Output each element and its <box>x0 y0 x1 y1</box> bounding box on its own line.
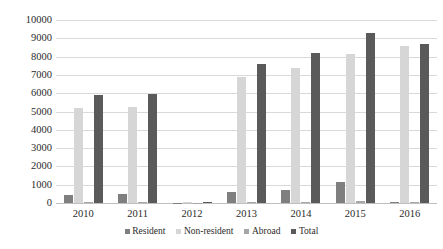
y-axis-tick-label: 5000 <box>0 106 52 117</box>
bar-total <box>148 94 157 203</box>
bar-resident <box>227 192 236 203</box>
gridline <box>56 203 437 204</box>
bar-resident <box>336 182 345 203</box>
bar-non-resident <box>74 108 83 203</box>
bar-group <box>383 20 437 203</box>
y-axis-tick-label: 8000 <box>0 51 52 62</box>
bar-resident <box>390 202 399 203</box>
x-axis-tick-label: 2011 <box>110 205 164 223</box>
bar-total <box>203 202 212 203</box>
bar-group <box>165 20 219 203</box>
legend-item-abroad[interactable]: Abroad <box>244 227 280 237</box>
bar-total <box>257 64 266 203</box>
y-axis: 0100020003000400050006000700080009000100… <box>0 0 52 249</box>
bar-abroad <box>138 202 147 203</box>
bar-group <box>56 20 110 203</box>
y-axis-tick-label: 9000 <box>0 33 52 44</box>
bar-group <box>110 20 164 203</box>
x-axis-tick-label: 2010 <box>56 205 110 223</box>
x-axis-tick-label: 2013 <box>219 205 273 223</box>
x-axis-tick-label: 2014 <box>274 205 328 223</box>
x-axis-tick-label: 2012 <box>165 205 219 223</box>
legend-label: Total <box>299 227 318 237</box>
legend-item-total[interactable]: Total <box>291 227 318 237</box>
y-axis-tick-label: 1000 <box>0 179 52 190</box>
legend-swatch-icon <box>176 229 181 234</box>
bar-non-resident <box>128 107 137 203</box>
bar-total <box>311 53 320 203</box>
x-axis-tick-label: 2015 <box>328 205 382 223</box>
bar-total <box>94 95 103 203</box>
y-axis-tick-label: 10000 <box>0 15 52 26</box>
legend-label: Non-resident <box>184 227 234 237</box>
bar-non-resident <box>291 68 300 203</box>
bar-non-resident <box>237 77 246 203</box>
bar-abroad <box>410 202 419 203</box>
bar-total <box>420 44 429 203</box>
legend-swatch-icon <box>291 229 296 234</box>
bar-total <box>366 33 375 203</box>
chart-legend: ResidentNon-residentAbroadTotal <box>0 227 443 237</box>
y-axis-tick-label: 3000 <box>0 143 52 154</box>
bar-non-resident <box>346 54 355 203</box>
legend-swatch-icon <box>244 229 249 234</box>
bar-resident <box>64 195 73 203</box>
bar-abroad <box>356 201 365 203</box>
legend-item-non-resident[interactable]: Non-resident <box>176 227 233 237</box>
legend-label: Abroad <box>252 227 281 237</box>
x-axis: 2010201120122013201420152016 <box>56 205 437 223</box>
legend-item-resident[interactable]: Resident <box>125 227 166 237</box>
bar-non-resident <box>400 46 409 203</box>
bar-abroad <box>247 202 256 203</box>
y-axis-tick-label: 6000 <box>0 88 52 99</box>
y-axis-tick-label: 7000 <box>0 70 52 81</box>
bar-abroad <box>84 202 93 203</box>
bar-group <box>328 20 382 203</box>
bar-group <box>219 20 273 203</box>
bar-abroad <box>301 202 310 203</box>
y-axis-tick-label: 0 <box>0 198 52 209</box>
x-axis-tick-label: 2016 <box>383 205 437 223</box>
legend-swatch-icon <box>125 229 130 234</box>
bar-resident <box>118 194 127 203</box>
bar-group <box>274 20 328 203</box>
bar-non-resident <box>183 202 192 203</box>
legend-label: Resident <box>132 227 165 237</box>
y-axis-tick-label: 4000 <box>0 125 52 136</box>
bar-groups <box>56 20 437 203</box>
bar-resident <box>281 190 290 203</box>
y-axis-tick-label: 2000 <box>0 161 52 172</box>
bar-chart: 0100020003000400050006000700080009000100… <box>0 0 443 249</box>
